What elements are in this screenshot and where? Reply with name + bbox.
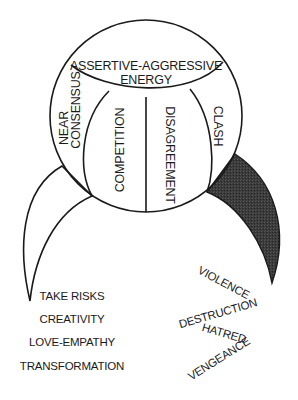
competition-label: COMPETITION: [113, 108, 127, 193]
near-consensus-line2: CONSENSUS: [69, 71, 83, 148]
top-section-line2: ENERGY: [120, 73, 172, 87]
positive-outcome-take-risks: TAKE RISKS: [40, 290, 105, 302]
clash-label: CLASH: [211, 106, 225, 147]
top-section-line1: ASSERTIVE-AGGRESSIVE: [70, 59, 222, 73]
negative-outcome-vengeance: VENGEANCE: [186, 335, 253, 383]
disagreement-label: DISAGREEMENT: [163, 106, 177, 204]
positive-outcome-love-empathy: LOVE-EMPATHY: [29, 336, 116, 348]
positive-outcome-transformation: TRANSFORMATION: [20, 360, 124, 372]
energy-outcome-diagram: ASSERTIVE-AGGRESSIVE ENERGY NEAR CONSENS…: [0, 0, 298, 400]
right-crescent-dark: [207, 154, 280, 283]
negative-outcome-violence: VIOLENCE: [196, 264, 252, 301]
near-consensus-divider: [84, 91, 109, 196]
clash-divider: [190, 89, 212, 192]
positive-outcome-creativity: CREATIVITY: [40, 313, 105, 325]
